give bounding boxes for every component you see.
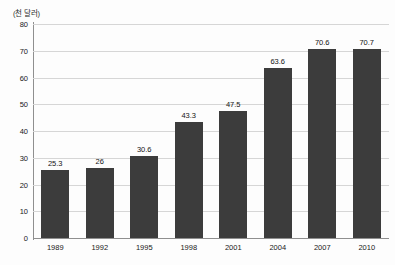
y-axis-tick-label: 60 bbox=[20, 73, 28, 82]
bar[interactable] bbox=[130, 156, 158, 238]
y-axis-unit-label: (천 달러) bbox=[13, 7, 40, 18]
bar-value-label: 47.5 bbox=[226, 100, 241, 109]
x-axis-tick-labels: 19891992199519982001200420072010 bbox=[33, 243, 389, 259]
bar-value-label: 25.3 bbox=[48, 159, 63, 168]
bar-value-label: 26 bbox=[96, 157, 104, 166]
bars-group: 25.32630.643.347.563.670.670.7 bbox=[33, 24, 389, 238]
bar-value-label: 70.7 bbox=[359, 38, 374, 47]
bar[interactable] bbox=[86, 168, 114, 238]
x-axis-tick-label: 2004 bbox=[269, 243, 286, 252]
bar-group[interactable]: 47.5 bbox=[219, 24, 247, 238]
x-axis-tick-label: 1989 bbox=[47, 243, 64, 252]
y-axis-tick-label: 40 bbox=[20, 127, 28, 136]
bar-chart-figure: (천 달러) 01020304050607080 25.32630.643.34… bbox=[0, 0, 395, 265]
bar-group[interactable]: 26 bbox=[86, 24, 114, 238]
bar-value-label: 63.6 bbox=[270, 57, 285, 66]
y-axis-tick-label: 10 bbox=[20, 207, 28, 216]
x-axis-tick-label: 2010 bbox=[358, 243, 375, 252]
bar-value-label: 43.3 bbox=[181, 111, 196, 120]
bar[interactable] bbox=[353, 49, 381, 238]
bar-group[interactable]: 25.3 bbox=[41, 24, 69, 238]
gridline: 0 bbox=[33, 238, 389, 239]
x-axis-tick-label: 2007 bbox=[314, 243, 331, 252]
bar-group[interactable]: 30.6 bbox=[130, 24, 158, 238]
bar-group[interactable]: 63.6 bbox=[264, 24, 292, 238]
y-axis-tick-label: 0 bbox=[24, 234, 28, 243]
x-axis-tick-label: 2001 bbox=[225, 243, 242, 252]
bar[interactable] bbox=[41, 170, 69, 238]
x-axis-tick-label: 1995 bbox=[136, 243, 153, 252]
bar[interactable] bbox=[308, 49, 336, 238]
bar-group[interactable]: 70.7 bbox=[353, 24, 381, 238]
bar-group[interactable]: 43.3 bbox=[175, 24, 203, 238]
x-axis-tick-label: 1992 bbox=[91, 243, 108, 252]
bar-value-label: 30.6 bbox=[137, 145, 152, 154]
plot-area: 01020304050607080 25.32630.643.347.563.6… bbox=[33, 24, 389, 238]
bar[interactable] bbox=[219, 111, 247, 238]
y-axis-tick-label: 20 bbox=[20, 180, 28, 189]
y-axis-tick-label: 30 bbox=[20, 153, 28, 162]
bar[interactable] bbox=[264, 68, 292, 238]
y-axis-tick-label: 50 bbox=[20, 100, 28, 109]
bar-group[interactable]: 70.6 bbox=[308, 24, 336, 238]
y-axis-tick-label: 70 bbox=[20, 46, 28, 55]
x-axis-tick-label: 1998 bbox=[180, 243, 197, 252]
bar-value-label: 70.6 bbox=[315, 38, 330, 47]
bar[interactable] bbox=[175, 122, 203, 238]
y-axis-tick-label: 80 bbox=[20, 20, 28, 29]
